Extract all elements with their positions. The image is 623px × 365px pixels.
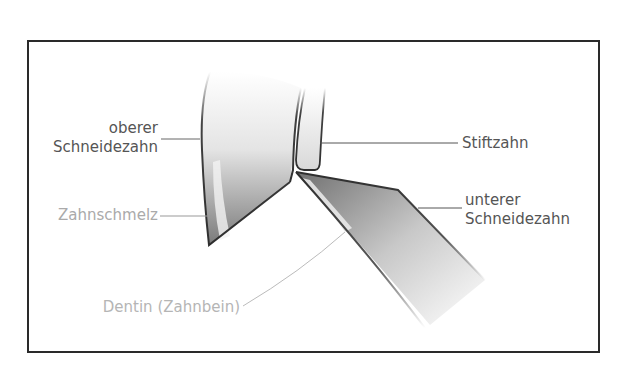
label-dentin: Dentin (Zahnbein) bbox=[103, 298, 240, 316]
label-pin-tooth: Stiftzahn bbox=[462, 134, 529, 152]
label-enamel: Zahnschmelz bbox=[58, 206, 158, 224]
pin-tooth bbox=[296, 88, 325, 170]
label-upper-incisor-2: Schneidezahn bbox=[53, 138, 158, 156]
label-lower-incisor-2: Schneidezahn bbox=[465, 210, 570, 228]
leader-dentin bbox=[243, 232, 345, 306]
tooth-diagram: oberer Schneidezahn Zahnschmelz Dentin (… bbox=[0, 0, 623, 365]
label-upper-incisor-1: oberer bbox=[109, 119, 159, 137]
lower-incisor-body bbox=[296, 172, 485, 325]
label-lower-incisor-1: unterer bbox=[465, 191, 521, 209]
upper-incisor bbox=[202, 72, 301, 245]
